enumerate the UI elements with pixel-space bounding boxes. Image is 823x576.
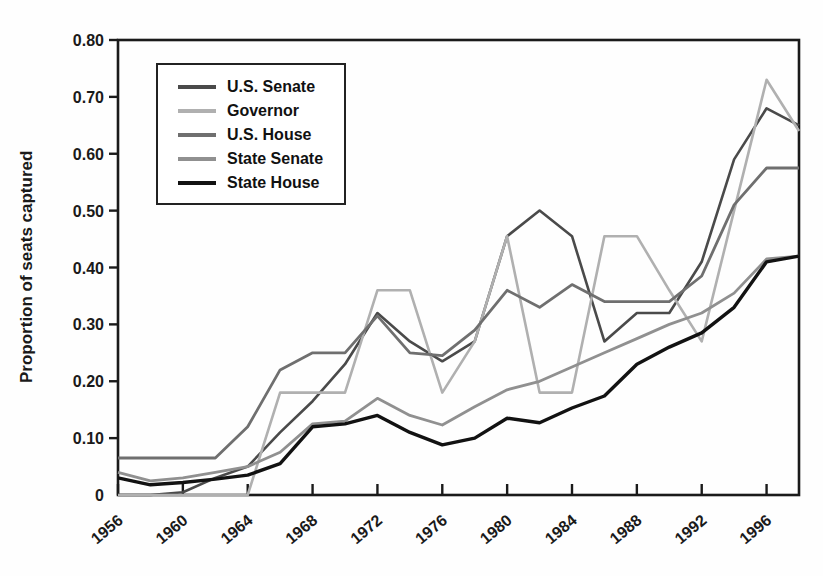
x-tick-label: 1956	[88, 511, 126, 547]
legend-item-governor: Governor	[178, 99, 344, 123]
x-tick-label: 1996	[736, 511, 774, 547]
y-tick-label: 0.70	[73, 89, 104, 106]
legend-swatch-us-house	[178, 133, 216, 137]
x-tick-label: 1984	[542, 511, 580, 547]
y-tick-label: 0.40	[73, 260, 104, 277]
plot-area: 00.100.200.300.400.500.600.700.801956196…	[0, 0, 823, 576]
legend-label-state-senate: State Senate	[227, 150, 323, 168]
y-tick-label: 0.80	[73, 32, 104, 49]
series-line-state-house	[118, 256, 799, 485]
legend-swatch-state-senate	[178, 157, 216, 161]
legend-item-us-senate: U.S. Senate	[178, 75, 344, 99]
legend-item-state-house: State House	[178, 171, 344, 195]
legend-swatch-state-house	[178, 181, 216, 185]
legend-swatch-us-senate	[178, 85, 216, 89]
x-tick-label: 1992	[671, 511, 709, 547]
x-tick-label: 1964	[217, 511, 255, 547]
legend-item-us-house: U.S. House	[178, 123, 344, 147]
x-tick-label: 1968	[282, 511, 320, 547]
legend-label-us-senate: U.S. Senate	[227, 78, 315, 96]
legend-swatch-governor	[178, 109, 216, 113]
x-tick-label: 1972	[347, 511, 385, 547]
x-tick-label: 1988	[607, 511, 645, 547]
legend-label-state-house: State House	[227, 174, 319, 192]
y-tick-label: 0.20	[73, 373, 104, 390]
legend-label-governor: Governor	[227, 102, 299, 120]
x-tick-label: 1960	[153, 511, 191, 547]
x-tick-label: 1976	[412, 511, 450, 547]
y-tick-label: 0.30	[73, 316, 104, 333]
y-tick-label: 0.10	[73, 430, 104, 447]
legend-label-us-house: U.S. House	[227, 126, 311, 144]
chart-figure: 00.100.200.300.400.500.600.700.801956196…	[0, 0, 823, 576]
y-axis-title: Proportion of seats captured	[17, 153, 37, 383]
y-tick-label: 0	[95, 487, 104, 504]
y-tick-label: 0.60	[73, 146, 104, 163]
legend: U.S. Senate Governor U.S. House State Se…	[156, 63, 346, 205]
x-tick-label: 1980	[477, 511, 515, 547]
legend-item-state-senate: State Senate	[178, 147, 344, 171]
y-tick-label: 0.50	[73, 203, 104, 220]
